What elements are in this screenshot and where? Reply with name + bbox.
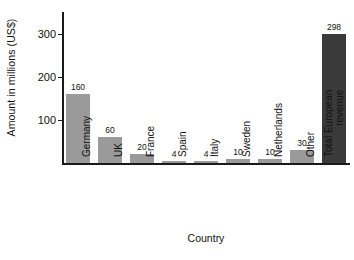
- y-tick-mark: [58, 77, 63, 78]
- bar-chart-figure: Amount in millions (US$) 100200300 16060…: [0, 0, 354, 260]
- x-axis-label: Netherlands: [274, 103, 285, 157]
- bar-value-label: 4: [172, 149, 177, 159]
- bar-value-label: 160: [71, 82, 85, 92]
- y-tick-mark: [58, 120, 63, 121]
- x-axis-line: [62, 163, 350, 165]
- x-axis-title: Country: [62, 232, 350, 244]
- y-tick-label: 100: [38, 114, 56, 126]
- x-axis-label: Italy: [210, 139, 221, 157]
- x-axis-label: Germany: [82, 116, 93, 157]
- x-axis-label: France: [146, 126, 157, 157]
- x-axis-label: Sweden: [242, 121, 253, 157]
- y-tick-mark: [58, 34, 63, 35]
- x-axis-label: UK: [114, 143, 125, 157]
- x-axis-label: Total Europeanrevenue: [324, 90, 345, 157]
- y-axis-title: Amount in millions (US$): [0, 0, 22, 155]
- bar-value-label: 298: [327, 22, 341, 32]
- bar-value-label: 60: [105, 125, 114, 135]
- y-tick-label: 300: [38, 28, 56, 40]
- bar-value-label: 4: [204, 149, 209, 159]
- x-axis-label: Other: [306, 132, 317, 157]
- bar: 10: [226, 159, 250, 163]
- bar: 10: [258, 159, 282, 163]
- x-axis-label: Spain: [178, 131, 189, 157]
- y-tick-label: 200: [38, 71, 56, 83]
- bar: 4: [162, 161, 186, 163]
- bar: 4: [194, 161, 218, 163]
